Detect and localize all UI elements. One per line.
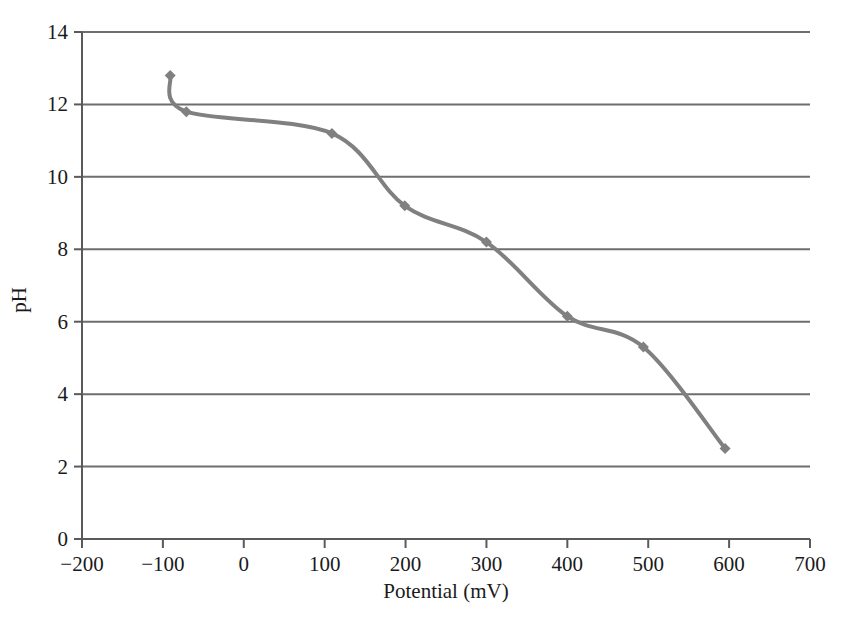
x-axis-tick-labels: −200−1000100200300400500600700 (60, 552, 825, 576)
x-axis-tick-label: −200 (60, 552, 103, 576)
x-axis-tick-label: 0 (239, 552, 250, 576)
y-axis-ticks (74, 32, 82, 539)
x-axis-tick-label: 600 (713, 552, 745, 576)
data-series-layer (165, 70, 731, 454)
y-axis-tick-label: 0 (58, 527, 69, 551)
y-axis-tick-label: 10 (47, 165, 68, 189)
chart-axes (82, 32, 810, 539)
x-axis-tick-label: 200 (390, 552, 422, 576)
chart-canvas: 02468101214 −200−10001002003004005006007… (0, 0, 847, 628)
x-axis-tick-label: 300 (471, 552, 503, 576)
y-axis-tick-label: 4 (58, 382, 69, 406)
y-axis-tick-label: 14 (47, 20, 69, 44)
y-axis-tick-label: 12 (47, 92, 68, 116)
y-axis-tick-label: 2 (58, 455, 69, 479)
horizontal-gridlines (82, 32, 810, 467)
y-axis-tick-label: 6 (58, 310, 69, 334)
y-axis-tick-label: 8 (58, 237, 69, 261)
y-axis-tick-labels: 02468101214 (47, 20, 69, 551)
x-axis-tick-label: 700 (794, 552, 826, 576)
data-point-marker (181, 106, 192, 117)
x-axis-tick-label: −100 (141, 552, 184, 576)
x-axis-tick-label: 400 (552, 552, 584, 576)
x-axis-tick-label: 500 (632, 552, 664, 576)
x-axis-ticks (82, 539, 810, 548)
data-point-marker (165, 70, 176, 81)
series-line (169, 75, 725, 448)
x-axis-title: Potential (mV) (383, 579, 508, 603)
ph-potential-chart: 02468101214 −200−10001002003004005006007… (0, 0, 847, 628)
x-axis-tick-label: 100 (309, 552, 341, 576)
y-axis-title: pH (7, 287, 31, 313)
